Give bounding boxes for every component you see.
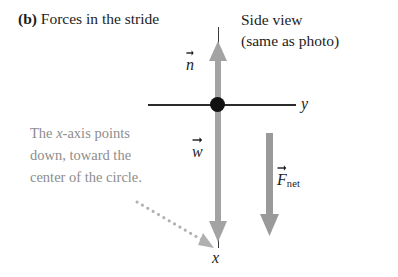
note-line-3: center of the circle. (30, 166, 205, 188)
normal-force-symbol: n (186, 57, 194, 73)
note-line-2: down, toward the (30, 144, 205, 166)
side-view-caption: Side view (same as photo) (241, 9, 339, 51)
origin-point-dot (210, 97, 225, 112)
x-axis-explanatory-note: The x-axis points down, toward the cente… (30, 122, 205, 188)
net-force-symbol-text: F (277, 171, 287, 188)
panel-title: Forces in the stride (41, 10, 159, 27)
dotted-pointer-arrow (130, 196, 220, 254)
side-view-line-1: Side view (241, 9, 339, 30)
x-axis-label: x (212, 249, 219, 267)
note-line-1: The x-axis points (30, 122, 205, 144)
panel-label: (b) Forces in the stride (18, 9, 159, 29)
net-force-subscript: net (287, 178, 300, 189)
side-view-line-2: (same as photo) (241, 30, 339, 51)
note-line-1-suffix: -axis points (63, 125, 130, 141)
normal-force-label: n (186, 56, 194, 74)
physics-force-diagram: (b) Forces in the stride Side view (same… (0, 0, 398, 277)
y-axis-label: y (301, 95, 308, 113)
weight-force-label: w (192, 143, 203, 161)
panel-letter: (b) (18, 10, 37, 27)
vector-arrow-overbar-icon (192, 135, 203, 143)
vector-arrow-overbar-icon (186, 48, 194, 56)
normal-force-symbol-text: n (186, 56, 194, 73)
weight-force-symbol: w (192, 144, 203, 160)
net-force-label: F net (277, 171, 300, 189)
vector-arrow-overbar-icon (277, 163, 287, 171)
weight-force-symbol-text: w (192, 143, 203, 160)
net-force-symbol: F (277, 172, 287, 188)
note-line-1-prefix: The (30, 125, 56, 141)
